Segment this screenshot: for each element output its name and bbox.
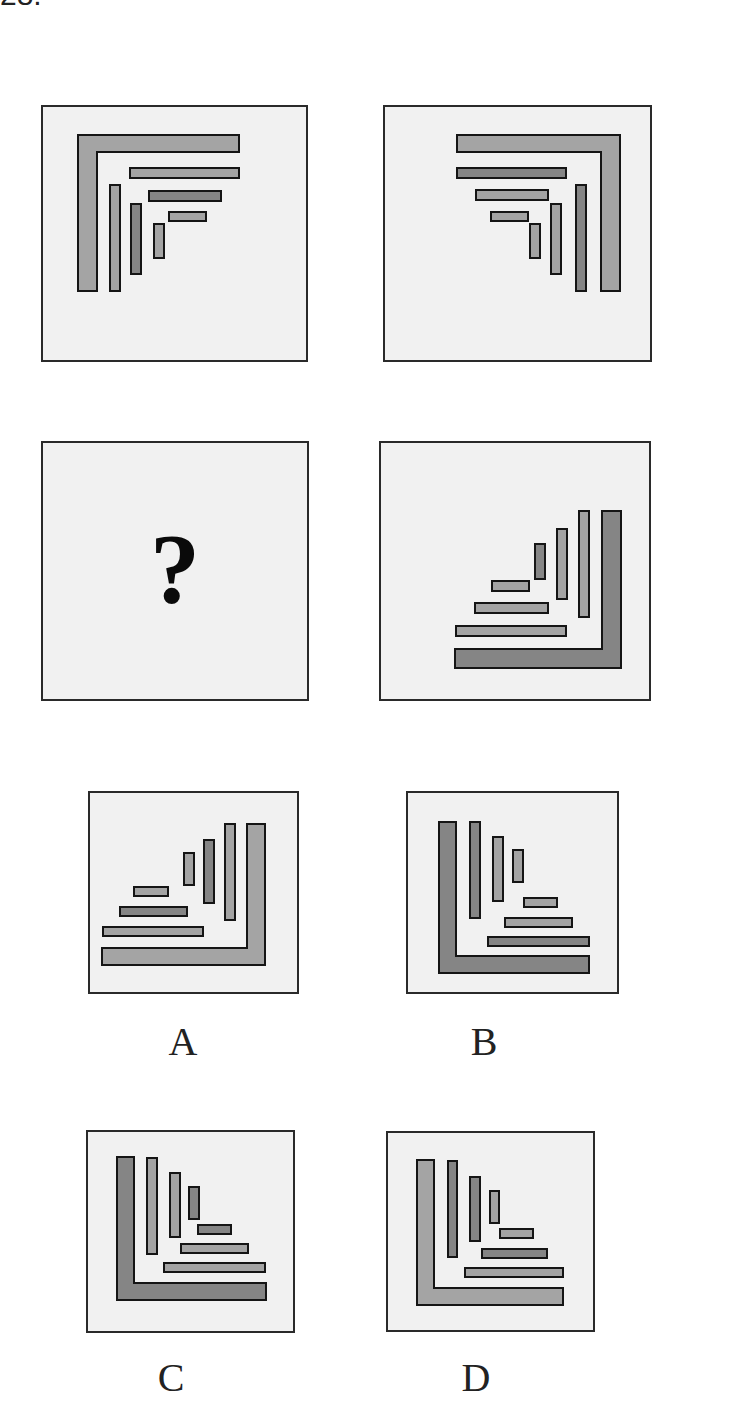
l-shape xyxy=(78,135,239,291)
question-mark-icon: ? xyxy=(43,511,307,626)
horizontal-bar xyxy=(120,907,187,916)
option-a-figure[interactable] xyxy=(88,791,299,994)
option-d-label[interactable]: D xyxy=(446,1354,506,1401)
vertical-bar xyxy=(189,1187,199,1219)
nested-l-figure xyxy=(88,791,299,994)
horizontal-bar xyxy=(524,898,557,907)
l-shape xyxy=(457,135,620,291)
vertical-bar xyxy=(513,850,523,882)
horizontal-bar xyxy=(492,581,529,591)
horizontal-bar xyxy=(134,887,168,896)
horizontal-bar xyxy=(103,927,203,936)
horizontal-bar xyxy=(505,918,572,927)
horizontal-bar xyxy=(198,1225,231,1234)
horizontal-bar xyxy=(476,190,548,200)
option-b-label[interactable]: B xyxy=(454,1018,514,1065)
missing-panel: ? xyxy=(41,441,309,701)
horizontal-bar xyxy=(491,212,528,221)
vertical-bar xyxy=(184,853,194,885)
l-shape xyxy=(117,1157,266,1300)
horizontal-bar xyxy=(482,1249,547,1258)
option-b-figure[interactable] xyxy=(406,791,619,994)
horizontal-bar xyxy=(169,212,206,221)
sequence-panel-4 xyxy=(379,441,651,701)
vertical-bar xyxy=(170,1173,180,1237)
vertical-bar xyxy=(557,529,567,599)
vertical-bar xyxy=(204,840,214,903)
sequence-panel-2 xyxy=(383,105,652,362)
horizontal-bar xyxy=(130,168,239,178)
question-number: 28. xyxy=(0,0,42,12)
horizontal-bar xyxy=(164,1263,265,1272)
vertical-bar xyxy=(154,224,164,258)
horizontal-bar xyxy=(475,603,548,613)
sequence-panel-1 xyxy=(41,105,308,362)
option-c-figure[interactable] xyxy=(86,1130,295,1333)
nested-l-figure xyxy=(379,441,651,701)
vertical-bar xyxy=(490,1191,499,1223)
horizontal-bar xyxy=(457,168,566,178)
l-shape xyxy=(102,824,265,965)
nested-l-figure xyxy=(41,105,308,362)
vertical-bar xyxy=(110,185,120,291)
horizontal-bar xyxy=(500,1229,533,1238)
vertical-bar xyxy=(530,224,540,258)
nested-l-figure xyxy=(406,791,619,994)
l-shape xyxy=(455,511,621,668)
vertical-bar xyxy=(535,544,545,579)
horizontal-bar xyxy=(456,626,566,636)
vertical-bar xyxy=(579,511,589,617)
vertical-bar xyxy=(131,204,141,274)
option-d-figure[interactable] xyxy=(386,1131,595,1332)
nested-l-figure xyxy=(383,105,652,362)
vertical-bar xyxy=(448,1161,457,1257)
vertical-bar xyxy=(470,822,480,918)
horizontal-bar xyxy=(488,937,589,946)
l-shape xyxy=(417,1160,563,1305)
horizontal-bar xyxy=(465,1268,563,1277)
option-a-label[interactable]: A xyxy=(153,1018,213,1065)
vertical-bar xyxy=(551,204,561,274)
vertical-bar xyxy=(147,1158,157,1254)
vertical-bar xyxy=(493,837,503,901)
horizontal-bar xyxy=(181,1244,248,1253)
option-c-label[interactable]: C xyxy=(141,1354,201,1401)
vertical-bar xyxy=(470,1177,480,1241)
nested-l-figure xyxy=(386,1131,595,1332)
horizontal-bar xyxy=(149,191,221,201)
vertical-bar xyxy=(576,185,586,291)
l-shape xyxy=(439,822,589,973)
vertical-bar xyxy=(225,824,235,920)
nested-l-figure xyxy=(86,1130,295,1333)
